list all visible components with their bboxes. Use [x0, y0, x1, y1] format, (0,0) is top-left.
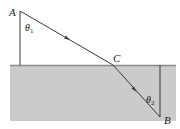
angle-label-theta1: θ1 — [25, 22, 34, 35]
point-label-c: C — [113, 52, 121, 64]
lower-medium-region — [10, 65, 176, 121]
point-label-b: B — [164, 114, 171, 126]
incident-ray-arrow-icon — [64, 36, 70, 41]
refraction-diagram: A C B θ1 θ2 — [0, 0, 180, 129]
point-label-a: A — [8, 6, 16, 18]
